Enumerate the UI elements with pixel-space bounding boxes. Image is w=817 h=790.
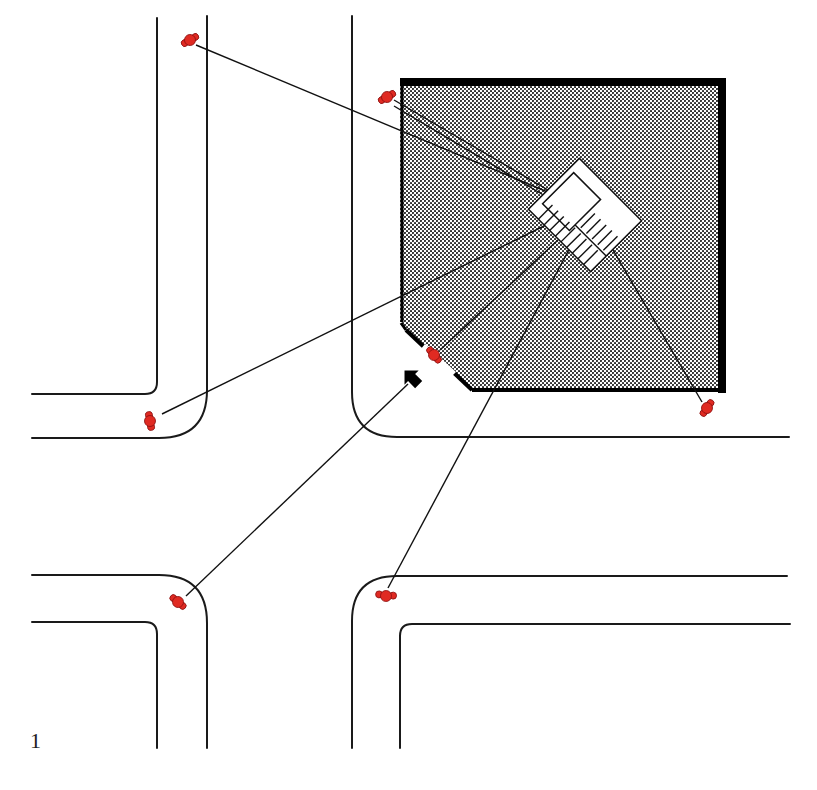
intersection-diagram [0,0,817,790]
curb-bottom-right-inner [400,624,790,748]
person-icon [375,590,397,603]
curb-bottom-left-inner [32,622,157,748]
curb-top-left-outer [32,16,207,438]
person-icon [376,87,398,106]
person-icon [179,30,201,49]
curb-bottom-right-outer [352,576,787,748]
figure-number: 1 [30,728,41,754]
person-icon [143,411,157,432]
person-icon [697,397,717,419]
curb-top-left-inner [32,18,157,394]
entrance-arrow-icon [397,363,425,391]
person-icon [167,592,189,613]
